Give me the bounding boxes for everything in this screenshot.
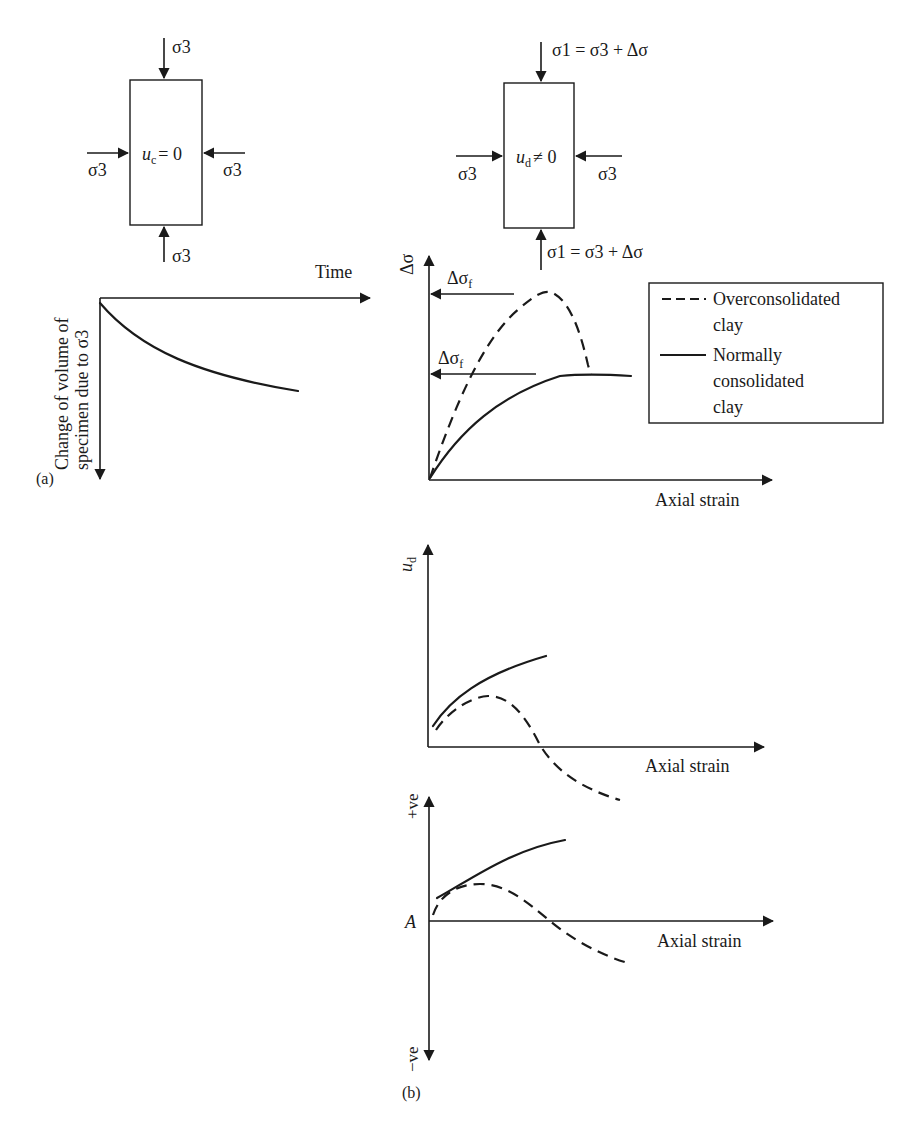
peak-label-upper: Δσf <box>447 268 472 291</box>
legend-item-normally-consolidated: Normally <box>713 345 782 365</box>
triaxial-test-figure: σ3 σ3 σ3 σ3 uc= 0 σ1 = σ3 + Δσ σ1 = σ3 +… <box>0 0 919 1128</box>
x-axis-label: Time <box>315 262 352 282</box>
specimen-a-bottom-load: σ3 <box>172 246 191 266</box>
legend-item-overconsolidated-line2: clay <box>713 315 743 335</box>
y-axis-label-line2: specimen due to σ3 <box>72 330 92 470</box>
pore-pressure-plot: ud Axial strain <box>396 545 764 800</box>
normally-consolidated-curve <box>430 375 631 479</box>
specimen-b-bottom-load: σ1 = σ3 + Δσ <box>547 242 643 262</box>
y-axis-label: Δσ <box>397 253 417 275</box>
x-axis-label: Axial strain <box>645 756 729 776</box>
peak-label-lower: Δσf <box>438 348 463 371</box>
specimen-a-diagram: σ3 σ3 σ3 σ3 uc= 0 <box>87 37 245 266</box>
y-axis-positive-label: +ve <box>403 793 422 819</box>
specimen-b-top-load: σ1 = σ3 + Δσ <box>552 40 648 60</box>
overconsolidated-curve <box>430 292 591 478</box>
panel-b-label: (b) <box>402 1084 421 1102</box>
legend-item-normally-consolidated-line3: clay <box>713 397 743 417</box>
normally-consolidated-curve <box>437 840 565 898</box>
y-axis-label: ud <box>396 557 419 572</box>
volume-change-plot: Time Change of volume of specimen due to… <box>36 262 370 488</box>
specimen-a-top-load: σ3 <box>172 37 191 57</box>
pore-pressure-parameter-plot: +ve −ve A Axial strain (b) <box>402 793 773 1102</box>
overconsolidated-curve <box>436 696 620 800</box>
legend-item-overconsolidated: Overconsolidated <box>713 289 840 309</box>
specimen-b-left-load: σ3 <box>458 164 477 184</box>
origin-label: A <box>404 912 417 932</box>
y-axis-negative-label: −ve <box>403 1046 422 1072</box>
specimen-a-pore-pressure: uc= 0 <box>142 144 182 167</box>
specimen-a-right-load: σ3 <box>223 160 242 180</box>
specimen-a-left-load: σ3 <box>88 160 107 180</box>
y-axis-label-line1: Change of volume of <box>52 318 72 470</box>
stress-strain-plot: Δσ Axial strain Δσf Δσf Overconsolidated… <box>397 253 883 510</box>
x-axis-label: Axial strain <box>655 490 739 510</box>
panel-a-label: (a) <box>36 470 54 488</box>
legend: Overconsolidated clay Normally consolida… <box>649 283 883 423</box>
overconsolidated-curve <box>433 884 628 963</box>
specimen-b-pore-pressure: ud≠ 0 <box>516 147 556 170</box>
consolidation-curve <box>100 303 298 391</box>
legend-item-normally-consolidated-line2: consolidated <box>713 371 804 391</box>
specimen-b-right-load: σ3 <box>598 164 617 184</box>
specimen-b-diagram: σ1 = σ3 + Δσ σ1 = σ3 + Δσ σ3 σ3 ud≠ 0 <box>456 40 648 270</box>
x-axis-label: Axial strain <box>657 931 741 951</box>
